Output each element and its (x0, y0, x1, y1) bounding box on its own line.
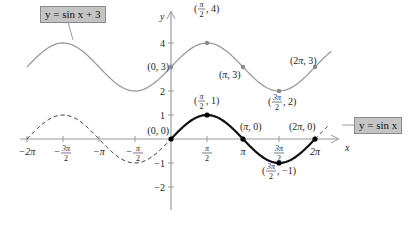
svg-text:−: − (54, 146, 60, 157)
upper-point-label: (0, 3) (147, 61, 169, 73)
x-tick-label: π2 (202, 144, 212, 163)
svg-text:−2π: −2π (19, 146, 37, 157)
svg-text:2: 2 (275, 103, 279, 112)
svg-text:(π, 0): (π, 0) (240, 121, 262, 133)
lower-curve-dashed-right (315, 125, 329, 139)
y-tick-label: −2 (154, 182, 165, 193)
svg-text:π: π (136, 144, 141, 153)
svg-text:3π: 3π (61, 144, 71, 153)
svg-text:3π: 3π (274, 144, 284, 153)
upper-point-label: (2π, 3) (290, 55, 317, 67)
y-tick-label: −1 (154, 158, 165, 169)
svg-text:, 2): , 2) (283, 96, 296, 108)
svg-text:π: π (240, 146, 246, 157)
svg-text:, 1): , 1) (206, 95, 219, 107)
svg-text:2π: 2π (310, 146, 321, 157)
y-tick-label: 4 (160, 38, 165, 49)
svg-text:2: 2 (205, 154, 209, 163)
upper-label-leader (68, 22, 73, 40)
y-tick-label: 2 (160, 86, 165, 97)
y-tick-label: 1 (160, 110, 165, 121)
svg-text:(: ( (194, 95, 198, 107)
x-tick-label: −2π (19, 146, 37, 157)
svg-text:−π: −π (93, 146, 106, 157)
svg-text:2: 2 (269, 172, 273, 181)
upper-point-label: (3π2, 2) (268, 93, 296, 112)
svg-text:2: 2 (64, 154, 68, 163)
x-tick-label: 3π2 (274, 144, 284, 163)
svg-text:(2π, 3): (2π, 3) (290, 55, 317, 67)
svg-text:(2π, 0): (2π, 0) (289, 121, 316, 133)
upper-point (205, 41, 209, 45)
x-tick-label: 2π (310, 146, 321, 157)
lower-point-label: (π, 0) (240, 121, 262, 133)
upper-curve-label: y = sin x + 3 (40, 6, 106, 23)
lower-point-label: (π2, 1) (194, 92, 219, 111)
svg-text:(: ( (194, 3, 198, 15)
axes (20, 11, 339, 210)
svg-text:(: ( (262, 165, 266, 177)
x-axis-label: x (344, 142, 350, 153)
upper-point (169, 65, 173, 69)
svg-text:2: 2 (200, 10, 204, 19)
lower-point (240, 136, 245, 141)
lower-point (204, 112, 209, 117)
svg-text:−: − (126, 146, 132, 157)
upper-point (241, 65, 245, 69)
svg-text:2: 2 (136, 154, 140, 163)
svg-text:(: ( (268, 96, 272, 108)
upper-point-label: (π, 3) (219, 69, 241, 81)
lower-curve-label: y = sin x (354, 117, 402, 134)
svg-text:π: π (205, 144, 210, 153)
lower-point-label: (0, 0) (147, 125, 169, 137)
lower-point-label: (3π2, −1) (262, 162, 296, 181)
x-tick-label: π (240, 146, 246, 157)
svg-text:2: 2 (277, 154, 281, 163)
svg-text:, −1): , −1) (277, 165, 296, 177)
sine-graph: −2π−3π2−π−π2π2π3π22π−2−1124xy(0, 3)(π2, … (0, 0, 412, 225)
svg-text:3π: 3π (272, 93, 282, 102)
x-tick-label: −3π2 (54, 144, 71, 163)
lower-point (312, 136, 317, 141)
svg-text:2: 2 (200, 102, 204, 111)
lower-point (168, 136, 173, 141)
x-tick-label: −π (93, 146, 106, 157)
svg-text:(0, 0): (0, 0) (147, 125, 169, 137)
svg-text:3π: 3π (266, 162, 276, 171)
svg-text:(π, 3): (π, 3) (219, 69, 241, 81)
x-tick-label: −π2 (126, 144, 143, 163)
lower-point-label: (2π, 0) (289, 121, 316, 133)
upper-curve (27, 43, 331, 91)
svg-text:(0, 3): (0, 3) (147, 61, 169, 73)
svg-text:π: π (199, 92, 204, 101)
svg-text:π: π (199, 0, 204, 9)
upper-point-label: (π2, 4) (194, 0, 219, 19)
svg-text:, 4): , 4) (206, 3, 219, 15)
y-axis-label: y (159, 11, 165, 22)
